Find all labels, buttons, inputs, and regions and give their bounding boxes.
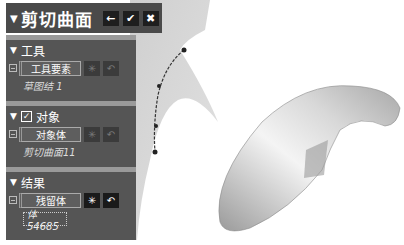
section-target: ▼ ✓ 对象 对象体 ✳ ↶ 剪切曲面11 [6, 101, 136, 167]
tool-element-field[interactable]: 工具要素 [19, 61, 81, 76]
dialog-titlebar: ▼ 剪切曲面 ← ✔ ✖ [6, 3, 162, 33]
collapse-icon: ▼ [10, 45, 17, 55]
section-result: ▼ 结果 残留体 ✳ ↶ 体 54685 [6, 167, 136, 240]
tool-selection[interactable]: 草图结 1 [6, 77, 136, 93]
collapse-list-icon[interactable] [9, 130, 17, 138]
snowflake-button[interactable]: ✳ [84, 127, 100, 142]
undo-icon: ↶ [107, 129, 115, 140]
section-title: 对象 [36, 108, 60, 125]
undo-button[interactable]: ↶ [103, 61, 119, 76]
target-checkbox[interactable]: ✓ [21, 111, 32, 122]
surface-shape [130, 0, 218, 240]
snowflake-icon: ✳ [88, 129, 96, 140]
cancel-button[interactable]: ✖ [143, 11, 159, 26]
snowflake-button[interactable]: ✳ [84, 61, 100, 76]
collapse-icon: ▼ [10, 177, 17, 187]
checkmark-icon: ✔ [126, 12, 135, 25]
section-title: 结果 [21, 174, 45, 191]
snowflake-icon: ✳ [88, 63, 96, 74]
undo-icon: ↶ [107, 195, 115, 206]
undo-button[interactable]: ↶ [103, 127, 119, 142]
divider [6, 35, 136, 40]
collapse-icon: ▼ [10, 111, 17, 121]
divider [6, 167, 136, 172]
check-icon: ✓ [23, 112, 31, 121]
arrow-left-icon: ← [106, 12, 115, 25]
ok-button[interactable]: ✔ [123, 11, 139, 26]
result-selection[interactable]: 体 54685 [23, 212, 67, 226]
section-header-tool[interactable]: ▼ 工具 [6, 41, 136, 59]
section-title: 工具 [21, 42, 45, 59]
section-header-target[interactable]: ▼ ✓ 对象 [6, 107, 136, 125]
target-body-field[interactable]: 对象体 [19, 127, 81, 142]
back-button[interactable]: ← [103, 11, 119, 26]
undo-icon: ↶ [107, 63, 115, 74]
collapse-list-icon[interactable] [9, 64, 17, 72]
undo-button[interactable]: ↶ [103, 193, 119, 208]
section-tool: ▼ 工具 工具要素 ✳ ↶ 草图结 1 [6, 35, 136, 101]
snowflake-button[interactable]: ✳ [84, 193, 100, 208]
collapse-list-icon[interactable] [9, 196, 17, 204]
close-icon: ✖ [146, 12, 155, 25]
collapse-icon[interactable]: ▼ [10, 13, 18, 24]
snowflake-icon: ✳ [88, 195, 96, 206]
divider [6, 101, 136, 106]
target-selection[interactable]: 剪切曲面11 [6, 143, 136, 159]
section-header-result[interactable]: ▼ 结果 [6, 173, 136, 191]
dialog-title: 剪切曲面 [21, 6, 93, 31]
